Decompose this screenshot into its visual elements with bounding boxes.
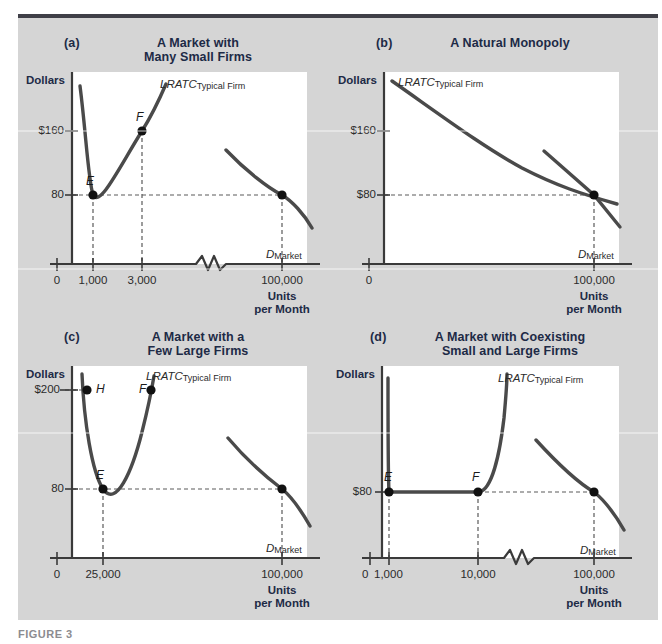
panel-a-y-ticklabel-160: $160 [16,124,64,136]
panel-c-x-ticklabel-25000: 25,000 [69,568,137,580]
panel-d-lratc-label-sub: Typical Firm [535,375,584,385]
panel-a-y-ticklabel-80: 80 [16,188,64,200]
panel-a-x-axis-label: Units per Month [242,290,322,316]
panel-c-point-h-marker [82,385,91,394]
panel-a-x-axis-label-line1: Units [242,290,322,303]
panel-a: (a) A Market with Many Small Firms Dolla… [20,28,330,318]
panel-d-point-label-e: E [384,470,392,484]
panel-c-lratc-label: LRATCTypical Firm [146,370,231,382]
panel-d-x-ticklabel-1000: 1,000 [374,568,403,580]
panel-d-point-market-marker [589,487,598,496]
figure-root: (a) A Market with Many Small Firms Dolla… [0,0,662,644]
panel-c-lratc-label-sub: Typical Firm [183,373,232,383]
panel-c-demand-label-sub: Market [274,545,302,555]
panel-a-lratc-label: LRATCTypical Firm [160,78,245,90]
panel-d: (d) A Market with Coexisting Small and L… [332,322,642,617]
panel-c-point-f-marker [146,385,155,394]
panel-c-x-axis-label-line1: Units [242,584,322,597]
panel-a-demand-label: DMarket [266,248,302,260]
panel-c-y-ticklabel-80: 80 [16,482,64,494]
panel-b-intersection-marker [589,190,598,199]
panel-d-x-ticklabel-0: 0 [362,568,368,580]
panel-d-lratc-label-main: LRATC [498,372,535,384]
panel-b-x-ticklabel-0: 0 [349,274,389,286]
panel-c-x-ticklabel-100000: 100,000 [246,568,318,580]
panel-a-point-market-marker [277,190,286,199]
panel-a-x-ticklabel-3000: 3,000 [112,274,172,286]
panel-a-point-e-marker [88,190,97,199]
panel-d-point-f-marker [473,487,482,496]
panel-d-point-label-f: F [472,470,479,484]
panel-b-demand-label: DMarket [578,248,614,260]
panel-c-x-axis-label: Units per Month [242,584,322,610]
panel-d-x-axis-label: Units per Month [554,584,634,610]
panel-d-lratc-label: LRATCTypical Firm [498,372,583,384]
panel-b-lratc-label: LRATCTypical Firm [398,76,483,88]
panel-a-plot-area [72,72,307,264]
panel-b-x-axis-label-line1: Units [554,290,634,303]
panel-b-x-axis-label: Units per Month [554,290,634,316]
panel-a-x-axis-label-line2: per Month [242,303,322,316]
panel-b-x-ticklabel-100000: 100,000 [558,274,630,286]
panel-d-demand-label-sub: Market [588,547,616,557]
panel-a-point-label-f: F [136,110,143,124]
panel-b-lratc-label-main: LRATC [398,76,435,88]
panel-b-lratc-label-sub: Typical Firm [435,79,484,89]
panel-d-x-axis-label-line2: per Month [554,597,634,610]
panel-d-demand-label: DMarket [580,544,616,556]
panel-d-y-ticklabel-80: $80 [326,485,372,497]
panel-c-lratc-label-main: LRATC [146,370,183,382]
panel-b-y-ticklabel-80: $80 [328,188,376,200]
panel-a-x-ticklabel-100000: 100,000 [246,274,318,286]
panel-d-x-ticklabel-100000: 100,000 [558,568,630,580]
panel-c-point-label-e: E [96,468,104,482]
panel-c-point-label-f: F [139,382,146,396]
panel-c-demand-label: DMarket [266,542,302,554]
panel-d-x-ticklabel-10000: 10,000 [445,568,511,580]
panel-a-lratc-label-sub: Typical Firm [197,81,246,91]
panel-c-point-market-marker [277,484,286,493]
panel-d-point-e-marker [384,487,393,496]
panel-a-point-label-e: E [86,174,94,188]
panel-b-y-ticklabel-160: $160 [328,124,376,136]
panel-c-point-e-marker [98,484,107,493]
panel-c: (c) A Market with a Few Large Firms Doll… [20,322,330,617]
panel-c-y-ticklabel-200: $200 [14,383,60,395]
panel-c-point-label-h: H [96,382,105,396]
panel-b: (b) A Natural Monopoly Dollars $160 $80 … [332,28,642,318]
panel-b-demand-label-sub: Market [586,251,614,261]
panel-d-x-axis-label-line1: Units [554,584,634,597]
figure-caption: FIGURE 3 [18,628,73,640]
panel-a-demand-label-sub: Market [274,251,302,261]
panel-c-x-axis-label-line2: per Month [242,597,322,610]
panel-d-plot-area [382,366,619,558]
panel-a-point-f-marker [137,126,146,135]
panel-b-x-axis-label-line2: per Month [554,303,634,316]
panel-c-plot-area [72,366,307,558]
panel-a-lratc-label-main: LRATC [160,78,197,90]
